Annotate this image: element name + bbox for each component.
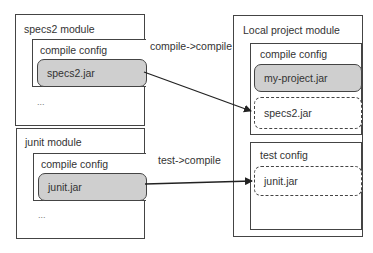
junit-module: junit module compile config junit.jar ..… — [16, 128, 145, 239]
local-project-module: Local project module compile config my-p… — [233, 15, 363, 237]
local-test-config-title: test config — [260, 149, 308, 161]
junit-compile-config: compile config junit.jar — [33, 153, 146, 201]
specs2-compile-config-title: compile config — [40, 44, 107, 56]
junit-module-title: junit module — [25, 136, 82, 148]
local-test-config: test config junit.jar — [250, 142, 362, 230]
specs2-jar: specs2.jar — [37, 59, 147, 87]
edge-label-test-compile: test->compile — [158, 154, 221, 166]
local-compile-config: compile config my-project.jar specs2.jar — [250, 43, 362, 135]
specs2-ellipsis: ... — [37, 97, 45, 107]
junit-compile-config-title: compile config — [41, 158, 108, 170]
local-project-module-title: Local project module — [243, 24, 340, 36]
junit-jar: junit.jar — [38, 173, 147, 201]
junit-ellipsis: ... — [38, 210, 46, 220]
specs2-compile-config: compile config specs2.jar — [32, 39, 146, 87]
local-specs2-jar: specs2.jar — [254, 97, 362, 129]
specs2-module-title: specs2 module — [24, 23, 95, 35]
specs2-module: specs2 module compile config specs2.jar … — [15, 14, 145, 126]
edge-label-compile-compile: compile->compile — [150, 40, 232, 52]
local-junit-jar: junit.jar — [254, 166, 362, 196]
local-compile-config-title: compile config — [260, 48, 327, 60]
my-project-jar: my-project.jar — [254, 64, 362, 92]
